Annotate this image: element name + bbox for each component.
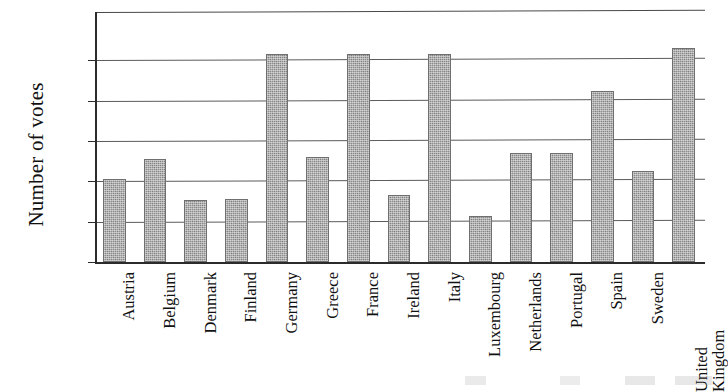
x-axis-tick-label-line: Finland [241, 272, 260, 322]
x-axis-tick-label: Luxembourg [486, 272, 503, 357]
bar [306, 157, 329, 262]
scan-artifact [440, 376, 722, 385]
x-axis-tick-label-line: Kingdom [710, 272, 727, 392]
plot-area [95, 12, 705, 262]
x-axis-tick-label-line: Portugal [567, 272, 586, 328]
x-axis-tick-label-line: France [363, 272, 382, 317]
bar [103, 179, 126, 262]
bar [144, 159, 167, 262]
x-axis-tick-label: Portugal [568, 272, 585, 328]
x-axis-tick-label-line: Denmark [201, 272, 220, 333]
x-axis-tick-label: Greece [324, 272, 341, 319]
bar [388, 195, 411, 262]
x-axis-line [95, 262, 705, 264]
x-axis-tick-label: Sweden [649, 272, 666, 324]
x-axis-tick-label: Italy [446, 272, 463, 302]
x-axis-tick-label-line: Spain [607, 272, 626, 310]
x-axis-tick-label: Finland [242, 272, 259, 322]
plot-top-border [95, 10, 705, 13]
bar [469, 216, 492, 262]
x-axis-tick-label: France [364, 272, 381, 317]
y-axis-line [95, 12, 97, 263]
bar [672, 48, 695, 262]
x-axis-tick-label-line: United [693, 272, 710, 392]
x-axis-tick-label-line: Ireland [404, 272, 423, 319]
x-axis-tick-label: Spain [608, 272, 625, 310]
bar [184, 200, 207, 263]
bar [632, 171, 655, 262]
x-axis-tick-label: Austria [120, 272, 137, 321]
bar [225, 199, 248, 263]
bar [510, 153, 533, 262]
x-axis-tick-label-line: Netherlands [526, 272, 545, 352]
x-axis-tick-label: Germany [283, 272, 300, 333]
bar [550, 153, 573, 262]
x-axis-tick-label: Denmark [202, 272, 219, 333]
x-axis-tick-label-line: Greece [323, 272, 342, 319]
x-axis-tick-label: Netherlands [527, 272, 544, 352]
bar [266, 54, 289, 262]
x-axis-tick-label-line: Italy [445, 272, 464, 302]
gridline [95, 58, 705, 61]
x-axis-tick-label-line: Sweden [648, 272, 667, 324]
x-axis-tick-label-line: Luxembourg [485, 272, 504, 357]
x-axis-tick-label-line: Austria [119, 272, 138, 321]
bar [428, 54, 451, 262]
x-axis-tick-label: UnitedKingdom [693, 272, 727, 392]
x-axis-tick-label: Ireland [405, 272, 422, 319]
x-axis-tick-label-line: Belgium [160, 272, 179, 329]
x-axis-tick-label: Belgium [161, 272, 178, 329]
y-axis-title: Number of votes [24, 40, 49, 270]
x-axis-tick-label-line: Germany [282, 272, 301, 333]
bar [591, 91, 614, 262]
bar [347, 54, 370, 262]
